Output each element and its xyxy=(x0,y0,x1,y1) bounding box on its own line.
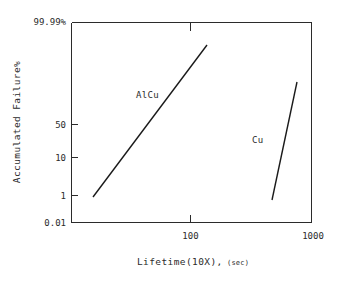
series-label-cu: Cu xyxy=(252,135,263,145)
x-axis-title: Lifetime(10X), xyxy=(137,256,223,267)
x-axis-title-unit: (sec) xyxy=(227,259,249,267)
series-label-alcu: AlCu xyxy=(136,90,159,100)
chart-canvas: 99.99% 50 10 1 0.01 100 1000 Accumulated… xyxy=(0,0,345,281)
x-tick-label-100: 100 xyxy=(182,231,198,241)
y-tick-label-1: 1 xyxy=(61,191,66,201)
data-line-alcu xyxy=(93,45,207,197)
chart-figure: 99.99% 50 10 1 0.01 100 1000 Accumulated… xyxy=(0,0,345,281)
y-tick-label-50: 50 xyxy=(55,120,66,130)
y-tick-label-9999: 99.99% xyxy=(33,17,66,27)
y-tick-label-10: 10 xyxy=(55,153,66,163)
y-tick-label-001: 0.01 xyxy=(44,218,66,228)
x-tick-label-1000: 1000 xyxy=(302,231,324,241)
data-line-cu xyxy=(272,82,297,200)
y-axis-title: Accumulated Failure% xyxy=(11,61,22,183)
plot-frame xyxy=(72,23,312,223)
